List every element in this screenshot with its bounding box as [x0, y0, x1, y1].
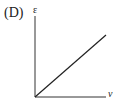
data-line [35, 35, 106, 97]
graph [0, 0, 118, 100]
